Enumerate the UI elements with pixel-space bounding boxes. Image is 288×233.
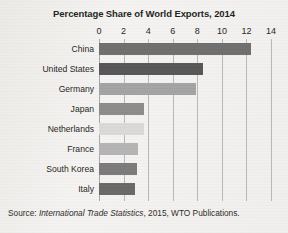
bar-united-states	[99, 63, 203, 75]
plot-area: 02468101214 ChinaUnited StatesGermanyJap…	[0, 26, 288, 201]
category-label-united-states: United States	[1, 59, 97, 79]
bar-china	[99, 43, 251, 55]
bar-row: Japan	[0, 99, 288, 119]
bar-row: China	[0, 39, 288, 59]
x-tick-label-12: 12	[241, 26, 251, 36]
x-tick-label-4: 4	[146, 26, 151, 36]
x-tick-label-8: 8	[195, 26, 200, 36]
category-label-italy: Italy	[1, 179, 97, 199]
category-label-south-korea: South Korea	[1, 159, 97, 179]
category-label-japan: Japan	[1, 99, 97, 119]
bar-japan	[99, 103, 144, 115]
source-prefix: Source:	[8, 208, 39, 218]
bar-row: South Korea	[0, 159, 288, 179]
bar-row: France	[0, 139, 288, 159]
source-suffix: , 2015, WTO Publications.	[143, 208, 239, 218]
bar-germany	[99, 83, 196, 95]
bar-south-korea	[99, 163, 137, 175]
bar-row: United States	[0, 59, 288, 79]
category-label-netherlands: Netherlands	[1, 119, 97, 139]
x-tick-label-0: 0	[96, 26, 101, 36]
bar-row: Netherlands	[0, 119, 288, 139]
chart-title: Percentage Share of World Exports, 2014	[0, 8, 288, 19]
source-note: Source: International Trade Statistics, …	[8, 208, 240, 218]
bar-italy	[99, 183, 135, 195]
category-label-germany: Germany	[1, 79, 97, 99]
x-tick-label-14: 14	[266, 26, 276, 36]
category-label-china: China	[1, 39, 97, 59]
bar-row: Germany	[0, 79, 288, 99]
bar-row: Italy	[0, 179, 288, 199]
category-label-france: France	[1, 139, 97, 159]
bar-france	[99, 143, 138, 155]
source-title: International Trade Statistics	[39, 208, 144, 218]
bar-netherlands	[99, 123, 144, 135]
chart-page: Percentage Share of World Exports, 2014 …	[0, 0, 288, 233]
x-tick-label-10: 10	[217, 26, 227, 36]
x-tick-label-2: 2	[121, 26, 126, 36]
x-tick-label-6: 6	[170, 26, 175, 36]
